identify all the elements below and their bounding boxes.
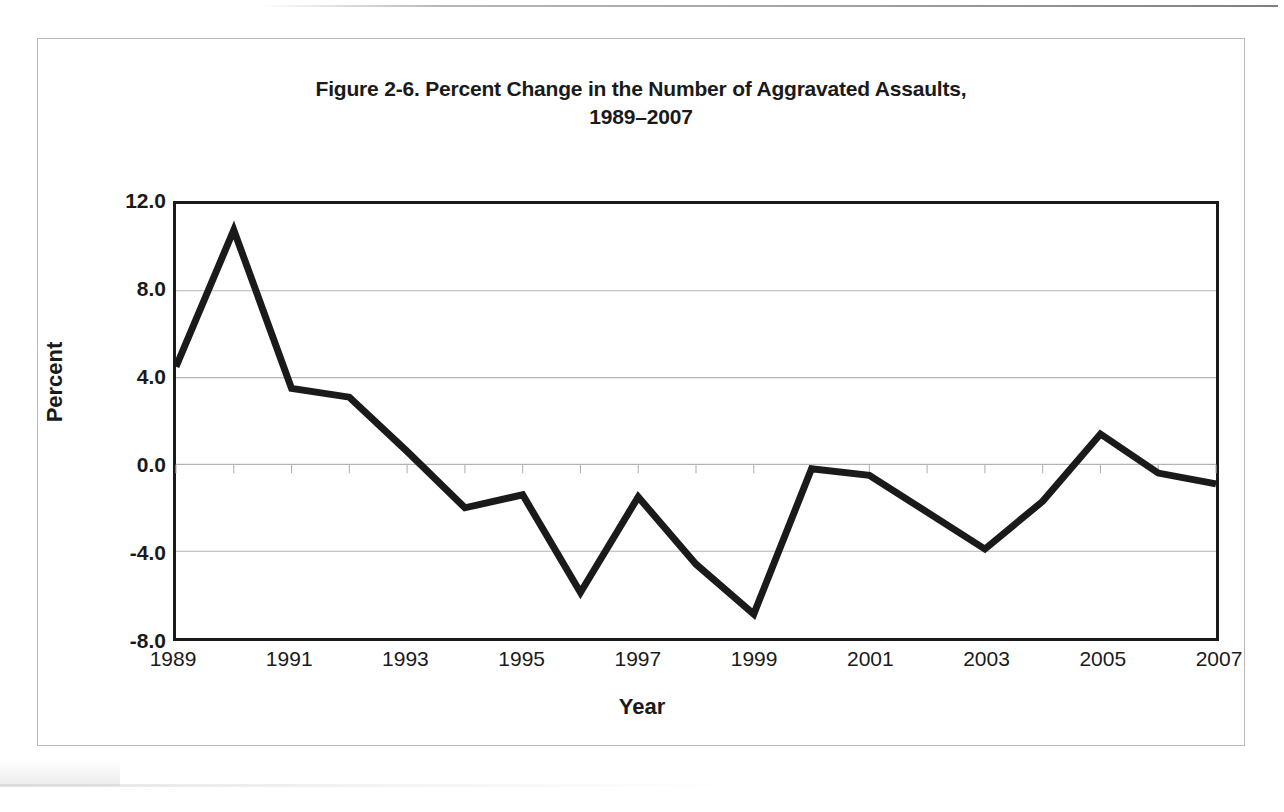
y-axis-tick-label: 0.0 — [96, 453, 166, 477]
figure-frame: Figure 2-6. Percent Change in the Number… — [37, 38, 1245, 746]
scan-artifact-bottom-left — [0, 760, 120, 786]
y-axis-tick-label: -4.0 — [96, 541, 166, 565]
scan-artifact-bottom-edge — [0, 784, 740, 787]
x-axis-tick-label: 1993 — [382, 647, 429, 671]
chart-title-line-2: 1989–2007 — [38, 103, 1244, 131]
x-axis-tick-label: 2001 — [847, 647, 894, 671]
chart-title-line-1: Figure 2-6. Percent Change in the Number… — [316, 77, 967, 100]
y-axis-tick-label: 12.0 — [96, 189, 166, 213]
data-line-series — [176, 204, 1216, 638]
y-axis-tick-label: 8.0 — [96, 277, 166, 301]
x-axis-tick-label: 1999 — [731, 647, 778, 671]
y-axis-tick-labels: 12.08.04.00.0-4.0-8.0 — [86, 201, 166, 641]
x-axis-tick-label: 1997 — [615, 647, 662, 671]
x-axis-tick-label: 1991 — [266, 647, 313, 671]
x-axis-tick-label: 2003 — [963, 647, 1010, 671]
x-axis-tick-label: 2007 — [1196, 647, 1243, 671]
x-axis-tick-label: 2005 — [1079, 647, 1126, 671]
plot-area — [173, 201, 1219, 641]
x-axis-tick-labels: 1989199119931995199719992001200320052007 — [173, 647, 1219, 681]
y-axis-title: Percent — [42, 342, 68, 423]
chart-title: Figure 2-6. Percent Change in the Number… — [38, 75, 1244, 132]
series-line-percent-change — [176, 230, 1216, 614]
y-axis-tick-label: 4.0 — [96, 365, 166, 389]
scan-artifact-top-edge — [258, 5, 1278, 7]
x-axis-tick-label: 1995 — [498, 647, 545, 671]
x-axis-title: Year — [38, 694, 1246, 720]
x-axis-tick-label: 1989 — [150, 647, 197, 671]
